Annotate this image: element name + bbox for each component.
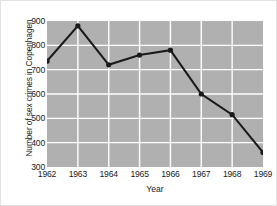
x-axis-tick-label: 1969 xyxy=(243,169,277,179)
data-point-marker xyxy=(75,23,80,28)
y-axis-tick-label: 400 xyxy=(23,138,45,148)
data-point-marker xyxy=(168,48,173,53)
data-point-marker xyxy=(106,62,111,67)
x-axis-title: Year xyxy=(47,184,263,194)
line-chart-svg xyxy=(47,21,263,167)
y-axis-tick-label: 500 xyxy=(23,113,45,123)
y-axis-tick-label: 600 xyxy=(23,89,45,99)
y-axis-tick-label: 800 xyxy=(23,40,45,50)
y-axis-tick-label: 900 xyxy=(23,16,45,26)
y-axis-tick-label: 700 xyxy=(23,65,45,75)
horizontal-gridlines xyxy=(47,45,263,142)
data-point-markers xyxy=(47,23,263,155)
plot-area xyxy=(47,21,263,167)
data-point-marker xyxy=(230,112,235,117)
data-point-marker xyxy=(137,52,142,57)
chart-figure: Number of sex crimes in Copenhagen 90080… xyxy=(0,0,277,206)
data-point-marker xyxy=(199,91,204,96)
x-axis-tick-labels: 19621963196419651966196719681969 xyxy=(47,169,263,183)
y-axis-tick-labels: 900800700600500400300 xyxy=(23,21,45,167)
